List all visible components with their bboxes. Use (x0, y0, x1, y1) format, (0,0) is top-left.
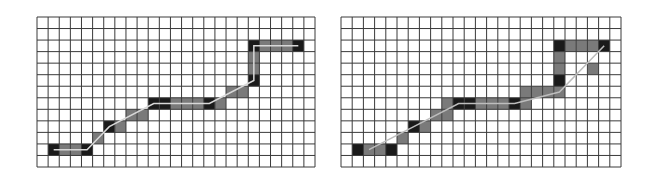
left-path-grid (36, 16, 316, 168)
left-grid-panel (36, 16, 316, 168)
path-cell-gray (576, 40, 587, 52)
path-cell-gray (520, 86, 531, 98)
path-cell-dark (554, 75, 565, 87)
path-cell-gray (554, 52, 565, 64)
path-cell-gray (363, 144, 374, 156)
path-cell-dark (386, 144, 397, 156)
path-cell-gray (565, 40, 576, 52)
path-cell-dark (554, 40, 565, 52)
path-cell-gray (587, 40, 598, 52)
right-path-grid (340, 16, 622, 168)
path-cell-dark (352, 144, 363, 156)
path-cell-gray (587, 63, 598, 75)
right-grid-panel (340, 16, 622, 168)
path-cell-gray (554, 63, 565, 75)
